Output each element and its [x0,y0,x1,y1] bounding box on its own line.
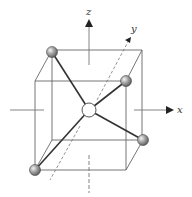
ligand-atom-bottom-back-right [138,135,149,146]
ligand-atom-top-front-right [121,76,132,87]
ligand-atom-top-back-left [47,47,58,58]
cube-back-face [52,50,143,140]
y-axis-label: y [130,23,137,34]
ligand-atom-bottom-front-left [30,165,41,176]
z-axis-arrow-icon [85,19,93,27]
center-atom [82,103,96,117]
x-axis-arrow-icon [166,106,174,114]
cube-front-face [35,81,126,170]
z-axis-label: z [85,6,92,17]
x-axis-label: x [177,104,183,115]
tetrahedral-cube-diagram: z y x [0,0,192,197]
